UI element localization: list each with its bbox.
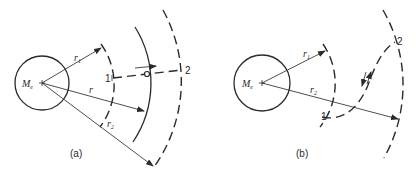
caption-a: (a) [70, 148, 82, 159]
point-2-label: 2 [397, 36, 403, 47]
orbit-transfer-diagram: Me r1 r r2 1 2 (a) Me r1 r [0, 0, 416, 179]
r2-vector [42, 83, 153, 166]
transfer-path [322, 42, 395, 118]
orbit-1-arc [100, 44, 114, 127]
r-label: r [89, 84, 93, 95]
orbit-2-arc [383, 10, 403, 158]
velocity-arrow [135, 66, 156, 68]
point-1-label: 1 [321, 111, 327, 122]
panel-a: Me r1 r r2 1 2 (a) [15, 10, 191, 167]
r1-label: r1 [303, 48, 310, 60]
r1-label: r1 [74, 52, 81, 64]
orbit-2-arc [154, 10, 181, 167]
caption-b: (b) [296, 148, 308, 159]
point-2-label: 2 [185, 65, 191, 76]
r2-vector [262, 83, 398, 119]
velocity-arrow-return [362, 72, 366, 86]
spacecraft-marker [145, 72, 150, 77]
point-1-label: 1 [105, 73, 111, 84]
r1-vector [42, 48, 101, 83]
intermediate-orbit-arc [133, 27, 151, 142]
planet-label: Me [21, 78, 33, 90]
r1-vector [262, 51, 325, 83]
planet-label: Me [241, 78, 253, 90]
r-vector [42, 83, 144, 111]
r2-label: r2 [107, 118, 114, 130]
panel-b: Me r1 r2 1 2 (b) [234, 10, 403, 159]
r2-label: r2 [310, 84, 317, 96]
